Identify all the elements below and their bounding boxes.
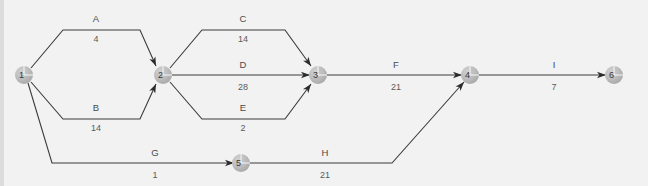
edge-name-A: A <box>93 13 100 24</box>
edge-name-E: E <box>240 102 246 113</box>
node-label-3: 3 <box>313 70 318 80</box>
node-1[interactable]: 1 <box>15 66 33 84</box>
node-5[interactable]: 5 <box>232 154 250 172</box>
edge-duration-C: 14 <box>238 34 248 44</box>
edge-name-I: I <box>553 59 556 70</box>
edge-duration-A: 4 <box>93 34 98 44</box>
arrowhead-C <box>303 57 314 68</box>
edge-name-H: H <box>322 147 329 158</box>
node-4[interactable]: 4 <box>461 66 479 84</box>
node-label-6: 6 <box>609 70 614 80</box>
node-6[interactable]: 6 <box>605 66 623 84</box>
node-label-2: 2 <box>158 70 163 80</box>
node-label-1: 1 <box>19 70 24 80</box>
left-rail-decoration <box>0 0 4 186</box>
arrowhead-A <box>149 56 159 67</box>
edge-name-D: D <box>240 59 247 70</box>
edges-layer <box>28 30 606 163</box>
arrowhead-B <box>149 83 159 94</box>
edge-path-G <box>28 83 234 163</box>
arrowheads-layer <box>149 56 606 166</box>
edge-duration-G: 1 <box>152 170 157 180</box>
edge-path-B <box>31 82 156 119</box>
edge-name-G: G <box>151 147 158 158</box>
network-diagram: 123456 A4B14C14D28E2F21G1H21I7 <box>0 0 648 186</box>
edge-duration-D: 28 <box>238 82 248 92</box>
node-2[interactable]: 2 <box>154 66 172 84</box>
edge-labels-layer: A4B14C14D28E2F21G1H21I7 <box>91 13 557 180</box>
edge-duration-B: 14 <box>91 123 101 133</box>
edge-duration-F: 21 <box>391 82 401 92</box>
node-3[interactable]: 3 <box>309 66 327 84</box>
edge-duration-E: 2 <box>240 123 245 133</box>
node-label-5: 5 <box>236 158 241 168</box>
network-diagram-canvas: 123456 A4B14C14D28E2F21G1H21I7 <box>0 0 648 186</box>
edge-path-H <box>248 82 464 163</box>
node-label-4: 4 <box>465 70 470 80</box>
edge-name-F: F <box>393 59 399 70</box>
edge-name-B: B <box>93 102 99 113</box>
edge-name-C: C <box>240 13 247 24</box>
edge-duration-I: 7 <box>551 82 556 92</box>
edge-duration-H: 21 <box>320 170 330 180</box>
arrowhead-E <box>303 82 314 93</box>
